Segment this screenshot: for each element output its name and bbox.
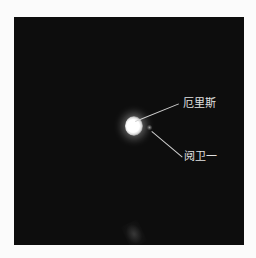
astronomy-photo: 厄里斯 阋卫一: [14, 17, 244, 245]
moon-dysnomia: [147, 125, 152, 130]
label-planet: 厄里斯: [183, 98, 216, 110]
faint-light-streak: [121, 219, 147, 245]
leader-line-planet: [135, 103, 179, 122]
label-moon: 阋卫一: [184, 151, 217, 163]
leader-line-moon: [151, 131, 182, 157]
